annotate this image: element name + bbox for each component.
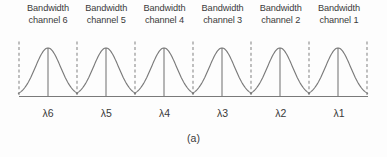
channel-label-2-line2: channel 2 [252, 15, 310, 27]
wavelength-label-1: λ1 [310, 107, 368, 125]
wavelength-label-2: λ2 [252, 107, 310, 125]
channel-label-1: Bandwidth channel 1 [310, 3, 368, 37]
wavelength-label-3: λ3 [194, 107, 252, 125]
channel-label-4-line1: Bandwidth [135, 3, 193, 15]
channel-label-3: Bandwidth channel 3 [194, 3, 252, 37]
channel-label-6: Bandwidth channel 6 [19, 3, 77, 37]
figure-wdm-channel-spectrum: Bandwidth channel 6 Bandwidth channel 5 … [0, 0, 387, 157]
wavelength-label-5: λ5 [77, 107, 135, 125]
channel-label-1-line2: channel 1 [310, 15, 368, 27]
channel-label-4-line2: channel 4 [135, 15, 193, 27]
channel-label-3-line2: channel 3 [194, 15, 252, 27]
wavelength-label-row: λ6 λ5 λ4 λ3 λ2 λ1 [19, 107, 368, 125]
figure-caption: (a) [0, 132, 387, 144]
channel-label-3-line1: Bandwidth [194, 3, 252, 15]
channel-label-row: Bandwidth channel 6 Bandwidth channel 5 … [19, 3, 368, 37]
channel-label-2-line1: Bandwidth [252, 3, 310, 15]
spectrum-plot [0, 38, 387, 104]
channel-label-2: Bandwidth channel 2 [252, 3, 310, 37]
wavelength-label-6: λ6 [19, 107, 77, 125]
channel-label-4: Bandwidth channel 4 [135, 3, 193, 37]
channel-label-5-line1: Bandwidth [77, 3, 135, 15]
channel-label-5-line2: channel 5 [77, 15, 135, 27]
channel-label-6-line1: Bandwidth [19, 3, 77, 15]
channel-label-5: Bandwidth channel 5 [77, 3, 135, 37]
channel-label-1-line1: Bandwidth [310, 3, 368, 15]
channel-label-6-line2: channel 6 [19, 15, 77, 27]
wavelength-label-4: λ4 [135, 107, 193, 125]
